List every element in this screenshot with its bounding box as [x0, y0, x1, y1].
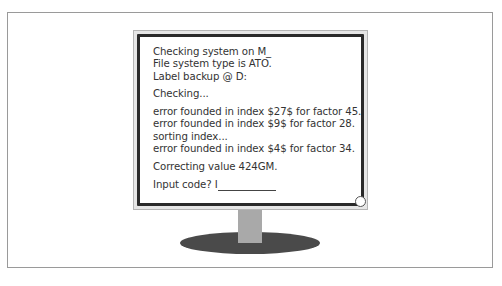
code-input-blank — [218, 180, 276, 191]
monitor: Checking system on M_ File system type i… — [133, 30, 368, 210]
terminal-line: Checking system on M_ — [153, 46, 357, 58]
input-prompt-label: Input code? I — [153, 179, 218, 191]
terminal-line: Label backup @ D: — [153, 71, 357, 83]
terminal-line: error founded in index $9$ for factor 28… — [153, 118, 357, 130]
input-prompt-line: Input code? I — [153, 179, 357, 191]
terminal-line: error founded in index $4$ for factor 34… — [153, 143, 357, 155]
terminal-line: File system type is ATO. — [153, 58, 357, 70]
terminal-line: error founded in index $27$ for factor 4… — [153, 106, 357, 118]
terminal-output: Checking system on M_ File system type i… — [153, 46, 357, 191]
power-button-icon — [355, 196, 366, 207]
terminal-line: Checking... — [153, 88, 357, 100]
terminal-line: Correcting value 424GM. — [153, 161, 357, 173]
terminal-line: sorting index... — [153, 131, 357, 143]
monitor-neck — [238, 210, 262, 243]
monitor-screen: Checking system on M_ File system type i… — [137, 34, 364, 206]
